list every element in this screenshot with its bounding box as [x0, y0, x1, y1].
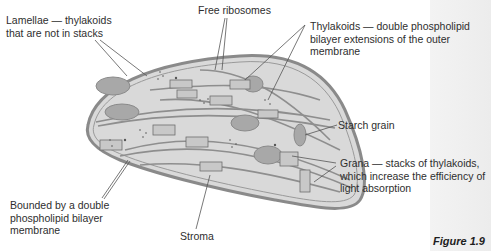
label-grana: Grana — stacks of thylakoids, which incr…: [340, 157, 485, 195]
figure-caption: Figure 1.9: [433, 235, 485, 247]
label-bounded-membrane: Bounded by a double phospholipid bilayer…: [10, 199, 109, 237]
label-thylakoids: Thylakoids — double phospholipid bilayer…: [310, 20, 470, 58]
label-lamellae: Lamellae — thylakoids that are not in st…: [6, 14, 112, 39]
label-starch-grain: Starch grain: [338, 119, 395, 132]
label-stroma: Stroma: [180, 230, 214, 243]
label-free-ribosomes: Free ribosomes: [198, 4, 271, 17]
